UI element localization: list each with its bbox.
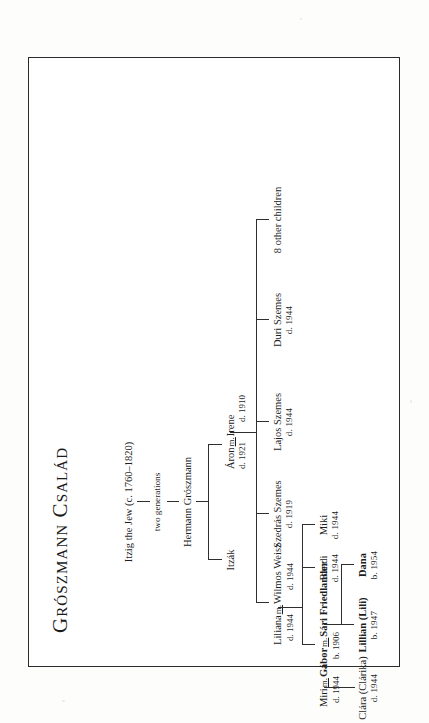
node-itzak: Itzák — [224, 550, 237, 571]
connector-gap-stem — [167, 501, 179, 502]
node-aron-irene-names: Áronm.Irene — [224, 415, 237, 469]
connector-clara-bus — [354, 687, 355, 688]
node-lillian-label: Lillian (Lili) — [356, 597, 369, 652]
node-gabor-marriage-names: Mirim.Gáborm.Sári Friedlander — [317, 562, 330, 707]
node-two-generations: two generations — [152, 473, 164, 531]
node-dana: Dana b. 1954 — [356, 551, 380, 579]
node-miki: Miki d. 1944 — [317, 511, 341, 539]
node-other-children-label: 8 other children — [271, 187, 284, 253]
node-two-generations-label: two generations — [152, 473, 164, 531]
node-dana-label: Dana — [356, 551, 369, 579]
node-duri: Duri Szemes d. 1944 — [271, 293, 295, 347]
node-lillian-date: b. 1947 — [369, 597, 380, 652]
node-lillian: Lillian (Lili) b. 1947 — [356, 597, 380, 652]
node-szedras: Szedrás Szemes d. 1919 — [271, 480, 295, 547]
node-duri-date: d. 1944 — [284, 293, 295, 347]
scan-speck — [300, 18, 302, 20]
connector-to-gabor — [302, 644, 315, 645]
family-tree-chart: Grószmann Család Itzig the Jew (c. 1760–… — [30, 59, 398, 665]
connector-szemes-bus — [256, 219, 257, 514]
scan-speck — [62, 700, 65, 702]
node-irene-date: d. 1910 — [237, 395, 248, 422]
connector-to-itzak — [208, 559, 222, 560]
node-liliana-label: Liliana — [272, 615, 283, 645]
node-gabor-label: Gábor — [318, 648, 329, 677]
node-miki-date: d. 1944 — [330, 511, 341, 539]
node-miri-date: d. 1944 — [331, 676, 342, 703]
node-liliana-date: d. 1944 — [285, 614, 296, 641]
node-duri-label: Duri Szemes — [271, 293, 284, 347]
connector-to-others — [256, 219, 269, 220]
rotated-chart-wrapper: Grószmann Család Itzig the Jew (c. 1760–… — [30, 59, 398, 665]
node-gabor-date: b. 1906 — [331, 632, 342, 659]
node-lajos-date: d. 1944 — [284, 393, 295, 451]
node-liliana-wilmos-names: Lilianam.Wilmos Weisz — [271, 543, 284, 645]
connector-miri-gabor-drop — [324, 687, 354, 688]
node-miri-label: Miri — [318, 688, 329, 707]
node-aron-date: d. 1921 — [237, 442, 248, 469]
node-wilmos-label: Wilmos Weisz — [272, 543, 283, 604]
page-title: Grószmann Család — [48, 447, 73, 633]
node-other-children: 8 other children — [271, 187, 284, 253]
connector-to-duri — [256, 319, 269, 320]
node-wilmos-date: d. 1944 — [285, 563, 296, 590]
node-szedras-date: d. 1919 — [284, 480, 295, 547]
connector-to-bandi — [302, 567, 315, 568]
connector-to-lillian — [341, 624, 354, 625]
node-clara-date: d. 1944 — [369, 656, 380, 719]
connector-to-lajos — [256, 421, 269, 422]
connector-gabor-sari-drop — [324, 624, 341, 625]
node-aron-irene-couple: Áronm.Irene — [224, 415, 237, 469]
node-clara-label: Clára (Clárika) — [356, 656, 369, 719]
marriage-mark-aron: m. — [226, 436, 236, 447]
connector-to-dana — [341, 564, 354, 565]
connector-liliana-marriage-drop — [278, 607, 302, 608]
connector-gen6-bus — [341, 565, 342, 625]
connector-hermann-bus — [208, 444, 209, 560]
node-miki-label: Miki — [317, 511, 330, 539]
connector-itzig-stem — [137, 501, 150, 502]
node-dana-date: b. 1954 — [369, 551, 380, 579]
page-border-frame: Grószmann Család Itzig the Jew (c. 1760–… — [28, 57, 400, 667]
node-sari-label: Sári Friedlander — [318, 562, 329, 637]
connector-hermann-stem — [196, 501, 208, 502]
node-hermann: Hermann Grószmann — [181, 457, 194, 547]
node-lajos: Lajos Szemes d. 1944 — [271, 393, 295, 451]
connector-to-liliana — [256, 602, 269, 603]
node-clara: Clára (Clárika) d. 1944 — [356, 656, 380, 719]
node-liliana-wilmos-couple: Lilianam.Wilmos Weisz — [271, 543, 284, 645]
node-itzig: Itzig the Jew (c. 1760–1820) — [122, 442, 135, 562]
marriage-mark-liliana: m. — [273, 604, 283, 615]
node-itzig-label: Itzig the Jew (c. 1760–1820) — [122, 442, 135, 562]
connector-to-aron — [208, 444, 222, 445]
connector-gen5-bus — [302, 525, 303, 645]
node-itzak-label: Itzák — [224, 550, 237, 571]
node-lajos-label: Lajos Szemes — [271, 393, 284, 451]
connector-to-miki — [302, 524, 315, 525]
scanned-page: Grószmann Család Itzig the Jew (c. 1760–… — [0, 0, 429, 723]
node-gabor-marriages: Mirim.Gáborm.Sári Friedlander — [317, 562, 330, 707]
marriage-mark-gabor: m. — [319, 637, 329, 648]
connector-liliana-bus — [256, 513, 257, 603]
node-szedras-label: Szedrás Szemes — [271, 480, 284, 547]
node-hermann-label: Hermann Grószmann — [181, 457, 194, 547]
connector-to-szedras — [256, 513, 269, 514]
scan-speck — [410, 400, 412, 403]
node-bandi-date: d. 1944 — [330, 554, 341, 582]
node-aron-label: Áron — [225, 447, 236, 469]
connector-aron-marriage-drop — [230, 432, 256, 433]
